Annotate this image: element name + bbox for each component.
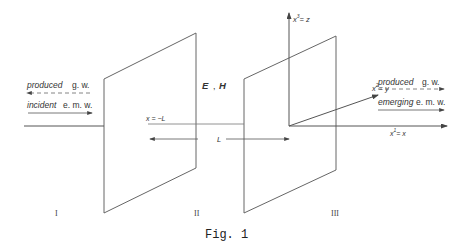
field-e-label: E (202, 80, 209, 91)
z-axis-label: x3= z (292, 13, 310, 24)
figure-diagram: produced g. w. incident e. m. w. produce… (0, 0, 469, 252)
figure-caption: Fig. 1 (205, 228, 248, 242)
distance-label: L (217, 135, 221, 144)
region-label-3: III (331, 209, 339, 218)
left-incident-abbr: e. m. w. (63, 100, 92, 110)
region-label-2: II (194, 209, 200, 218)
x-axis-label: x1= x (389, 127, 406, 137)
right-emerging-word: emerging (378, 97, 414, 107)
right-emerging-abbr: e. m. w. (416, 97, 445, 107)
plane-boundary-left (104, 33, 196, 213)
left-produced-word: produced (26, 80, 63, 90)
plane-boundary-right (244, 36, 336, 213)
left-incident-word: incident (27, 100, 57, 110)
field-sep: , (213, 81, 216, 91)
region-label-1: I (55, 209, 58, 218)
y-axis (289, 95, 378, 126)
y-axis-label: x2= y (371, 82, 390, 93)
left-produced-abbr: g. w. (72, 80, 89, 90)
boundary-label: x = −L (145, 115, 166, 122)
field-h-label: H (219, 80, 227, 91)
right-produced-abbr: g. w. (422, 77, 439, 87)
